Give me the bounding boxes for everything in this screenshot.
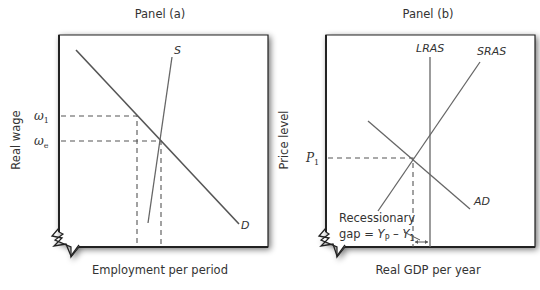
panel-b-x-label: Real GDP per year xyxy=(375,263,480,277)
panel-a-title: Panel (a) xyxy=(135,7,186,21)
lras-label: LRAS xyxy=(416,42,444,55)
panel-b: Panel (b) LRAS SRAS AD P1 Recessionary g… xyxy=(277,7,535,277)
economics-figure: Panel (a) S D ω1 ωe Real wage Employment… xyxy=(0,0,540,290)
omega-1-label: ω1 xyxy=(34,109,49,125)
demand-label: D xyxy=(241,219,249,232)
p1-label: P1 xyxy=(305,151,319,167)
sras-label: SRAS xyxy=(477,45,506,58)
panel-a-y-label: Real wage xyxy=(9,110,23,169)
recessionary-gap-label-line2: gap = YP – Y1 xyxy=(339,227,415,243)
panel-a: Panel (a) S D ω1 ωe Real wage Employment… xyxy=(9,7,268,277)
panel-a-x-label: Employment per period xyxy=(92,263,228,277)
supply-label: S xyxy=(174,44,181,57)
ad-label: AD xyxy=(473,195,490,208)
panel-b-y-label: Price level xyxy=(277,110,291,169)
panel-b-title: Panel (b) xyxy=(403,7,454,21)
omega-e-label: ωe xyxy=(34,134,49,150)
recessionary-gap-label-line1: Recessionary xyxy=(339,211,415,225)
